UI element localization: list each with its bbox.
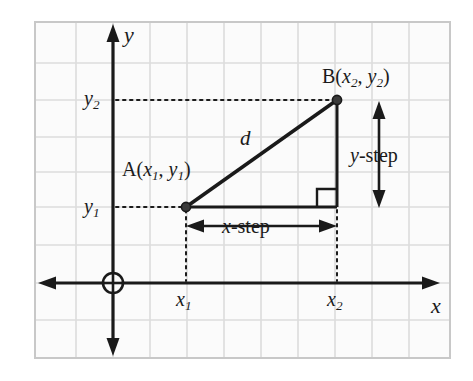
point-a-close-paren: ) <box>184 158 191 180</box>
distance-formula-figure: y x y2 y1 x1 x2 A(x1, y1) B(x2, y2) d y-… <box>0 0 473 381</box>
point-a-marker <box>181 202 190 211</box>
tick-label-x1-base: x <box>176 288 185 310</box>
coordinate-plane-canvas <box>0 0 473 381</box>
point-a-label: A(x1, y1) <box>122 159 191 182</box>
point-b-coord-y-subscript: 2 <box>376 75 383 90</box>
point-b-marker <box>332 95 341 104</box>
x-step-label-prefix: x <box>222 215 231 237</box>
tick-label-y1-subscript: 1 <box>93 205 100 220</box>
tick-label-x2-subscript: 2 <box>336 298 343 313</box>
tick-label-x1: x1 <box>176 289 191 312</box>
hypotenuse-label: d <box>240 128 251 149</box>
y-step-label-suffix: -step <box>359 144 398 166</box>
tick-label-x2-base: x <box>327 288 336 310</box>
point-a-comma: , <box>159 158 169 180</box>
point-b-coord-x-subscript: 2 <box>351 75 358 90</box>
tick-label-x1-subscript: 1 <box>185 298 192 313</box>
point-b-close-paren: ) <box>383 65 390 87</box>
point-b-comma: , <box>358 65 368 87</box>
point-a-name: A <box>122 158 136 180</box>
point-b-label: B(x2, y2) <box>322 66 390 89</box>
x-axis-label: x <box>431 295 441 317</box>
y-axis-label: y <box>124 24 134 46</box>
point-b-coord-x: x <box>342 65 351 87</box>
tick-label-y1: y1 <box>84 196 99 219</box>
y-step-label: y-step <box>350 145 398 165</box>
tick-label-x2: x2 <box>327 289 342 312</box>
point-b-open-paren: ( <box>335 65 342 87</box>
point-a-coord-x: x <box>143 158 152 180</box>
y-step-label-prefix: y <box>350 144 359 166</box>
point-b-name: B <box>322 65 335 87</box>
origin-marker-icon <box>103 273 123 293</box>
x-step-label-suffix: -step <box>231 215 270 237</box>
point-a-coord-y: y <box>169 158 178 180</box>
tick-label-y2: y2 <box>84 88 99 111</box>
tick-label-y2-base: y <box>84 87 93 109</box>
point-a-coord-x-subscript: 1 <box>152 168 159 183</box>
tick-label-y1-base: y <box>84 195 93 217</box>
tick-label-y2-subscript: 2 <box>93 97 100 112</box>
x-step-label: x-step <box>222 216 270 236</box>
